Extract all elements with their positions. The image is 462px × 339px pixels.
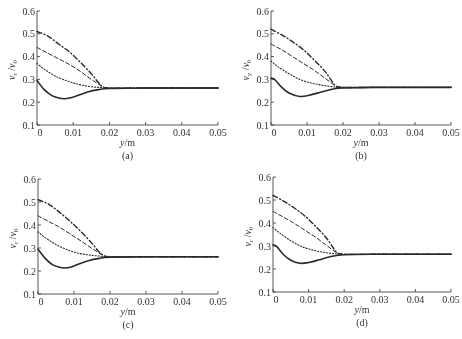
panel-caption: (d) (356, 317, 368, 329)
x-tick-label: 0.03 (371, 294, 389, 305)
series-line-dash-dot (273, 195, 451, 254)
y-axis-title: vr /v0 (242, 226, 255, 247)
y-tick-label: 0.5 (259, 195, 272, 206)
y-tick-label: 0.2 (259, 264, 272, 275)
series-line-dotted (273, 228, 451, 255)
y-tick-label: 0.6 (259, 172, 272, 183)
x-tick-label: 0.01 (300, 294, 318, 305)
chart-svg: 00.010.020.030.040.050.10.20.30.40.50.6v… (0, 0, 462, 339)
x-tick-label: 0.02 (335, 294, 353, 305)
y-tick-label: 0.1 (259, 287, 272, 298)
x-axis-title: y/m (353, 304, 369, 315)
x-tick-label: 0.05 (442, 294, 460, 305)
y-tick-label: 0.3 (259, 241, 272, 252)
x-tick-label: 0 (274, 294, 279, 305)
x-tick-label: 0.04 (407, 294, 425, 305)
y-tick-label: 0.4 (259, 218, 272, 229)
series-line-solid (273, 245, 451, 264)
axes (273, 177, 451, 292)
series-line-dashed (273, 212, 451, 255)
